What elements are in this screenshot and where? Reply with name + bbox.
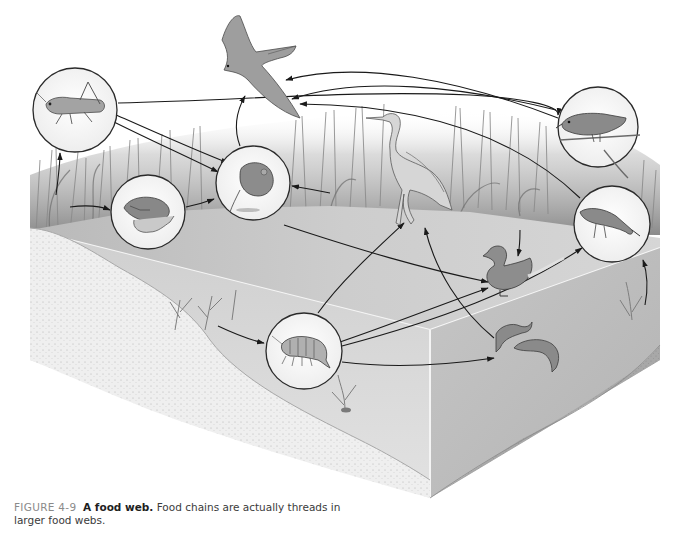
figure-title: A food web.	[83, 501, 153, 513]
organism-circle-grasshopper	[33, 68, 117, 152]
organism-circle-marsh-bird	[574, 186, 650, 262]
organism-circle-snail	[111, 175, 185, 249]
food-web-diagram: Grasshopper Snail Mouse Hawk Heron Songb…	[0, 0, 677, 541]
hawk	[222, 16, 300, 118]
figure-number: FIGURE 4-9	[14, 501, 76, 513]
organism-circle-shrimp	[266, 313, 342, 389]
figure-caption: FIGURE 4-9 A food web. Food chains are a…	[14, 501, 344, 527]
organism-circle-mouse	[216, 146, 290, 220]
organism-circle-songbird	[556, 87, 640, 167]
